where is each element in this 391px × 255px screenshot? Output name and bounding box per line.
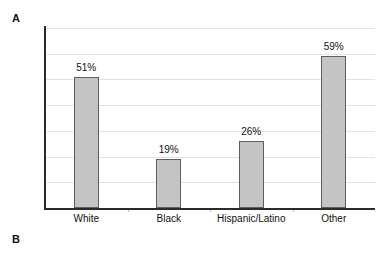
x-axis-labels: WhiteBlackHispanic/LatinoOther (45, 212, 375, 228)
bar-value-label: 51% (56, 62, 116, 74)
bar-chart: 51%19%26%59% (45, 28, 375, 208)
plot-area: 51%19%26%59% (45, 28, 375, 208)
x-axis-label: Other (284, 212, 384, 226)
panel-a-letter: A (12, 12, 20, 24)
bar (74, 77, 99, 208)
y-axis-line (44, 26, 46, 210)
bar-value-label: 59% (304, 41, 364, 53)
bar-value-label: 19% (139, 144, 199, 156)
gridline (45, 54, 375, 55)
x-axis-line (44, 208, 375, 210)
figure-panel-a: A 51%19%26%59% WhiteBlackHispanic/Latino… (0, 0, 391, 255)
gridline (45, 28, 375, 29)
bar (239, 141, 264, 208)
bar-value-label: 26% (221, 126, 281, 138)
bar (156, 159, 181, 208)
panel-b-letter: B (12, 233, 20, 245)
bar (321, 56, 346, 208)
